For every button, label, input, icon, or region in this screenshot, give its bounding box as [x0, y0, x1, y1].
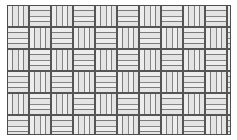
paving-slat	[73, 93, 95, 99]
paving-slat	[29, 27, 35, 49]
paving-slat	[178, 27, 184, 49]
paving-slat	[222, 71, 228, 93]
paving-slat	[183, 71, 205, 77]
paving-slat	[156, 93, 162, 115]
paving-slat	[7, 5, 13, 27]
paving-slat	[51, 126, 73, 132]
paving-slat	[161, 110, 183, 116]
paving-slat	[200, 49, 206, 71]
paving-slat	[161, 71, 167, 93]
paving-slat	[57, 5, 63, 27]
paving-slat	[79, 27, 85, 49]
paving-slat	[150, 49, 156, 71]
paving-slat	[51, 115, 73, 121]
paving-slat	[95, 44, 117, 50]
paving-slat	[161, 104, 183, 110]
paving-slat	[161, 49, 183, 55]
paving-slat	[29, 49, 51, 55]
paving-slat	[139, 5, 145, 27]
paving-slat	[73, 5, 95, 11]
paving-slat	[101, 5, 107, 27]
paving-slat	[117, 27, 123, 49]
paving-slat	[139, 33, 161, 39]
paving-slat	[95, 77, 117, 83]
paving-slat	[18, 49, 24, 71]
paving-slat	[183, 126, 205, 132]
paving-slat	[51, 88, 73, 94]
paving-slat	[73, 71, 79, 93]
paving-slat	[13, 49, 19, 71]
paving-slat	[68, 5, 74, 27]
paving-slat	[24, 93, 30, 115]
paving-slat	[167, 71, 173, 93]
paving-slat	[139, 27, 161, 33]
paving-slat	[95, 115, 117, 121]
paving-slat	[35, 71, 41, 93]
paving-slat	[117, 99, 139, 105]
paving-slat	[51, 121, 73, 127]
paving-slat	[40, 71, 46, 93]
paving-slat	[117, 49, 139, 55]
paving-slat	[183, 49, 189, 71]
paving-slat	[139, 121, 161, 127]
paving-slat	[205, 66, 227, 72]
paving-slat	[205, 27, 211, 49]
paving-slat	[101, 93, 107, 115]
paving-slat	[189, 93, 195, 115]
paving-slat	[101, 49, 107, 71]
paving-slat	[13, 93, 19, 115]
paving-slat	[150, 93, 156, 115]
paving-slat	[29, 60, 51, 66]
paving-slat	[145, 49, 151, 71]
basketweave-blocks	[7, 5, 237, 140]
paving-slat	[205, 99, 227, 105]
paving-slat	[73, 60, 95, 66]
paving-slat	[161, 22, 183, 28]
paving-slat	[29, 11, 51, 17]
paving-slat	[112, 49, 118, 71]
paving-slat	[161, 99, 183, 105]
paving-slat	[200, 93, 206, 115]
paving-slat	[189, 5, 195, 27]
paving-slat	[112, 93, 118, 115]
paving-slat	[7, 27, 29, 33]
paving-slat	[117, 93, 139, 99]
paving-slat	[73, 27, 79, 49]
paving-slat	[29, 99, 51, 105]
paving-slat	[29, 110, 51, 116]
paving-slat	[139, 88, 161, 94]
paving-slat	[29, 16, 51, 22]
paving-slat	[73, 22, 95, 28]
paving-slat	[150, 5, 156, 27]
paving-slat	[51, 5, 57, 27]
paving-slat	[62, 5, 68, 27]
paving-slat	[51, 44, 73, 50]
paving-slat	[24, 5, 30, 27]
paving-slat	[145, 93, 151, 115]
paving-slat	[128, 27, 134, 49]
paving-slat	[117, 104, 139, 110]
paving-slat	[156, 5, 162, 27]
paving-slat	[222, 27, 228, 49]
paving-slat	[156, 49, 162, 71]
paving-slat	[134, 27, 140, 49]
paving-slat	[183, 44, 205, 50]
paving-slat	[189, 49, 195, 71]
paving-slat	[161, 93, 183, 99]
paving-slat	[172, 71, 178, 93]
paving-slat	[51, 82, 73, 88]
paving-slat	[90, 27, 96, 49]
paving-slat	[73, 104, 95, 110]
paving-slat	[95, 33, 117, 39]
paving-slat	[7, 77, 29, 83]
paving-slat	[117, 11, 139, 17]
paving-slat	[95, 126, 117, 132]
paving-slat	[183, 121, 205, 127]
paving-pattern-canvas	[0, 0, 237, 140]
paving-slat	[95, 82, 117, 88]
paving-slat	[73, 55, 95, 61]
paving-slat	[84, 71, 90, 93]
paving-slat	[73, 99, 95, 105]
paving-slat	[51, 77, 73, 83]
paving-slat	[183, 93, 189, 115]
